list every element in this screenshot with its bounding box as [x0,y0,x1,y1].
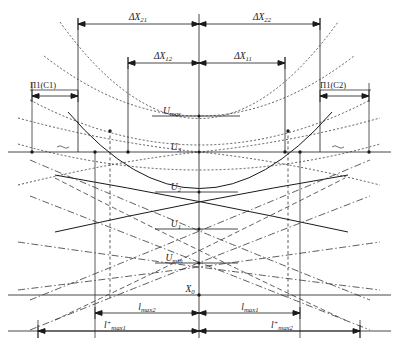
node-u3-left-inner [126,150,129,153]
dimension-row-bottom-inner [95,307,300,319]
arrowhead-dx11-left [199,61,206,66]
arrowhead-lplusmax2-left [199,329,206,334]
curve-dotted-inverse-left [30,100,370,145]
label-x-zero: X0 [184,284,195,295]
node-u3-far-right [367,150,370,153]
label-delta-x-12: ΔX12 [153,51,173,62]
node-u3-right-inner [283,150,286,153]
node-right-upper [286,129,289,132]
arrowhead-lmax1-left [199,311,206,316]
label-pi1-c1: П1(С1) [30,80,56,90]
arrowhead-pi1c2-right [362,94,369,99]
node-u3-far-left [30,150,33,153]
arrowhead-pi1c2-left [320,94,327,99]
label-u-3: U3 [171,142,182,153]
diagram-canvas: ΔX21 ΔX22 ΔX12 ΔX11 П1(С1) П1(С2) Umax U… [0,0,399,350]
dimension-row-top-inner [128,57,285,69]
approx-mark-right [332,146,344,149]
solid-curve-family [55,112,348,232]
curve-solid-parabola [68,112,332,189]
label-delta-x-11: ΔX11 [233,51,252,62]
label-delta-x-22: ΔX22 [252,12,272,23]
label-l-plus-max-1: l+max1 [104,319,126,332]
node-center-umin [198,262,201,265]
arrowhead-dx21-left [78,22,85,27]
label-u-2: U2 [171,182,182,193]
node-left-upper [108,129,111,132]
curve-dashed-descend [55,178,345,320]
arrowhead-dx22-left [199,22,206,27]
node-center-u1 [198,228,201,231]
arrowhead-lplusmax2-right [353,329,360,334]
arrowhead-dx12-left [128,61,135,66]
label-u-max: Umax [163,106,181,117]
node-center-u2 [198,191,201,194]
node-center-umax [198,115,201,118]
label-u-1: U1 [171,219,181,230]
arrowhead-pi1c1-left [32,94,39,99]
arrowhead-lplusmax1-left [38,329,45,334]
label-pi1-c2: П1(С2) [320,80,346,90]
curve-dashed-ascend [55,178,345,320]
curve-solid-ascend [55,175,348,232]
node-u3-left-outer [93,150,96,153]
arrowhead-dx22-right [313,22,320,27]
approx-marks [57,146,344,149]
label-l-max-2: lmax2 [138,302,156,313]
node-center-x0 [197,293,200,296]
label-l-max-1: lmax1 [241,302,258,313]
bracket-pi1-c2 [320,90,371,102]
curve-solid-descend [55,175,348,232]
arrowhead-lmax2-left [95,311,102,316]
label-l-plus-max-2: l+max2 [271,319,294,332]
bracket-pi1-c1 [30,90,78,102]
approx-mark-left [57,146,69,149]
label-delta-x-21: ΔX21 [128,12,147,23]
node-center-u3 [198,151,201,154]
level-tick-lines [152,116,240,263]
dashed-curve-family [55,178,345,320]
diagram-root: ΔX21 ΔX22 ΔX12 ΔX11 П1(С1) П1(С2) Umax U… [0,0,399,350]
node-u3-right-outer [298,150,301,153]
frame-lines [8,152,391,331]
arrowhead-dx11-right [278,61,285,66]
arrowhead-lmax1-right [293,311,300,316]
arrowhead-pi1c1-right [71,94,78,99]
